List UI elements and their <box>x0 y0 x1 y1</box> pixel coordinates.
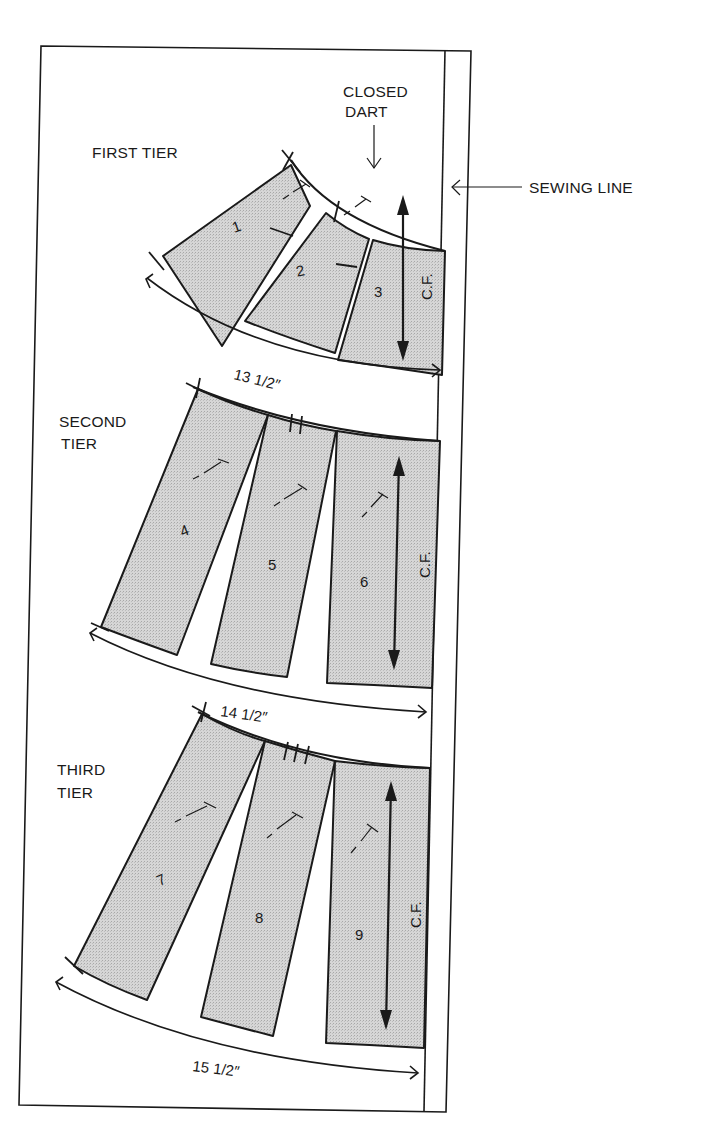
closed-dart-label: CLOSED <box>343 83 408 100</box>
closed-dart-label-line2: DART <box>345 103 388 120</box>
tier-measurement: 14 1/2″ <box>220 702 270 725</box>
cf-label: C.F. <box>416 551 433 578</box>
tier-measurement: 15 1/2″ <box>192 1057 241 1080</box>
cf-label: C.F. <box>407 901 424 928</box>
sewing-line-label: SEWING LINE <box>529 179 633 196</box>
piece-number-9: 9 <box>355 926 363 943</box>
first-tier: FIRST TIER 1 2 3 C.F. 1 <box>92 144 445 393</box>
tier-label-third-line2: TIER <box>57 784 93 801</box>
piece-number-5: 5 <box>268 556 276 573</box>
piece-number-6: 6 <box>360 573 368 590</box>
tiered-skirt-diagram: FIRST TIER 1 2 3 C.F. 1 <box>0 0 708 1145</box>
notch-mark <box>149 252 164 270</box>
sewing-line-callout: SEWING LINE <box>452 179 633 196</box>
tier-label-third: THIRD <box>57 761 105 778</box>
piece-number-8: 8 <box>255 909 263 926</box>
piece-number-3: 3 <box>374 283 382 300</box>
pin-mark-icon <box>344 196 371 215</box>
cf-label: C.F. <box>418 273 435 300</box>
tier-measurement: 13 1/2″ <box>232 365 282 393</box>
third-tier: THIRD TIER 7 8 9 C.F. 15 1/2″ <box>56 702 430 1080</box>
second-tier: SECOND TIER 4 5 6 C.F. 14 1/2″ <box>59 378 440 726</box>
tier-label-first: FIRST TIER <box>92 144 178 161</box>
tier-label-second: SECOND <box>59 413 127 430</box>
notch-mark <box>186 383 204 392</box>
closed-dart-callout: CLOSED DART <box>343 83 408 168</box>
tier-label-second-line2: TIER <box>61 435 97 452</box>
